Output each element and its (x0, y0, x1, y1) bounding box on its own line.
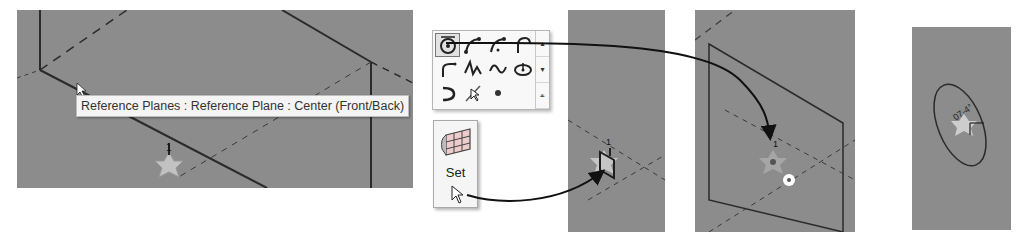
workplane-label: 1 (606, 137, 611, 147)
plane-edge (282, 10, 371, 62)
mouse-cursor-icon (450, 185, 470, 205)
gallery-expand-button[interactable]: ⩡ (536, 83, 549, 109)
spline-icon[interactable] (460, 57, 485, 81)
arc-center-ends-icon[interactable] (435, 33, 460, 57)
set-work-plane-button[interactable]: Set (433, 120, 478, 208)
point-element-icon[interactable] (485, 81, 510, 105)
arc-three-point-icon[interactable] (485, 33, 510, 57)
gallery-scrollbar[interactable]: ▴ ▾ ⩡ (535, 31, 549, 109)
workplane-label: 1 (773, 139, 778, 149)
workplane-label: 1 (166, 142, 172, 153)
view-panel-set-workplane[interactable]: 1 (568, 10, 665, 232)
dashed-axis (725, 110, 855, 180)
fillet-arc-icon[interactable] (435, 57, 460, 81)
view-panel-drawing-on-workplane[interactable]: 1 (695, 10, 855, 232)
spline-through-points-icon[interactable] (485, 57, 510, 81)
work-plane-outline (709, 44, 843, 232)
reference-plane-edge[interactable] (40, 70, 267, 188)
dashed-axis (177, 62, 371, 178)
view-panel-arc-angle[interactable]: 07-4° (912, 27, 1011, 230)
partial-ellipse-icon[interactable] (435, 81, 460, 105)
arc-tangent-icon[interactable] (510, 33, 535, 57)
pick-lines-icon[interactable] (460, 81, 485, 105)
element-tooltip: Reference Planes : Reference Plane : Cen… (76, 95, 409, 117)
draw-tools-gallery: ▴ ▾ ⩡ (432, 30, 550, 110)
set-button-label: Set (434, 165, 477, 180)
dashed-plane-edge (40, 10, 127, 70)
draw-tools-grid (435, 33, 535, 107)
gallery-scroll-down-button[interactable]: ▾ (536, 57, 549, 83)
arc-start-end-radius-icon[interactable] (460, 33, 485, 57)
ellipse-icon[interactable] (510, 57, 535, 81)
dashed-axis (17, 70, 40, 78)
workplane-gizmo-icon (590, 148, 618, 178)
viewport-geometry: 1 (568, 10, 665, 232)
work-plane-grid-icon (434, 121, 477, 165)
view-panel-hover-reference-plane[interactable]: 1 Reference Planes : Reference Plane : C… (17, 10, 413, 188)
dashed-axis (568, 120, 665, 180)
dashed-plane-edge (371, 62, 413, 83)
dashed-plane-edge (695, 10, 735, 40)
workplane-gizmo-icon (759, 150, 787, 174)
viewport-geometry: 07-4° (912, 27, 1011, 230)
gallery-scroll-up-button[interactable]: ▴ (536, 31, 549, 57)
snap-center-point-icon (783, 174, 795, 186)
viewport-geometry: 1 (695, 10, 855, 232)
